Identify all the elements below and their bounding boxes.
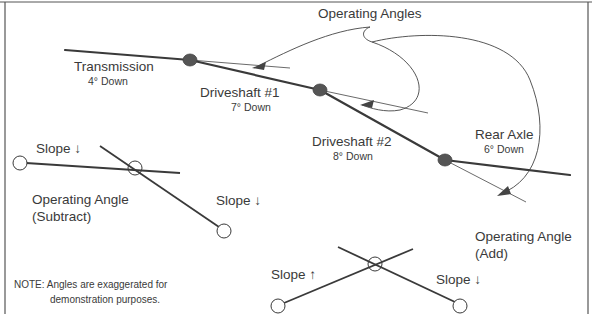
- subtract-end-left-icon: [13, 156, 27, 170]
- driveshaft-2-angle: 8° Down: [333, 151, 373, 163]
- note-line2: demonstration purposes.: [50, 294, 160, 305]
- subtract-label-line2: (Subtract): [32, 210, 91, 225]
- transmission-label: Transmission: [74, 60, 154, 75]
- subtract-center-icon: [128, 161, 142, 175]
- add-end-right-icon: [453, 299, 467, 313]
- operating-angle-arrows: [258, 27, 540, 194]
- add-label-line1: Operating Angle: [475, 230, 572, 245]
- joint-2-icon: [313, 84, 327, 96]
- joint-1-icon: [183, 54, 197, 66]
- diagram-title: Operating Angles: [318, 7, 422, 22]
- note-line1: NOTE: Angles are exaggerated for: [14, 279, 167, 290]
- driveshaft-1-angle: 7° Down: [231, 102, 271, 114]
- driveshaft-2-label: Driveshaft #2: [312, 135, 392, 150]
- rear-axle-angle: 6° Down: [484, 144, 524, 156]
- transmission-angle: 4° Down: [88, 76, 128, 88]
- add-end-left-icon: [271, 299, 285, 313]
- subtract-label-line1: Operating Angle: [32, 193, 129, 208]
- rear-axle-label: Rear Axle: [475, 128, 534, 143]
- arrowheads: [252, 62, 511, 196]
- add-slope-a: Slope ↑: [271, 268, 316, 283]
- joint-3-icon: [438, 154, 452, 166]
- add-slope-b: Slope ↓: [436, 273, 481, 288]
- add-label-line2: (Add): [475, 247, 508, 262]
- driveshaft-1-label: Driveshaft #1: [200, 86, 280, 101]
- subtract-slope-b: Slope ↓: [216, 194, 261, 209]
- subtract-end-right-icon: [217, 224, 231, 238]
- subtract-slope-a: Slope ↓: [36, 142, 81, 157]
- rear-axle-shaft: [445, 160, 570, 175]
